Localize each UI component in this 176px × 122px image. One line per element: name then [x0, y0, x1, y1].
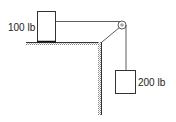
pulley-diagram: 100 lb 200 lb — [0, 0, 176, 122]
pulley-brace — [102, 27, 120, 42]
block-100lb — [38, 12, 56, 43]
wall-hatch — [98, 42, 101, 115]
pulley-axle — [121, 24, 123, 26]
label-100lb: 100 lb — [8, 22, 36, 33]
label-200lb: 200 lb — [138, 77, 166, 88]
block-200lb — [116, 71, 136, 94]
